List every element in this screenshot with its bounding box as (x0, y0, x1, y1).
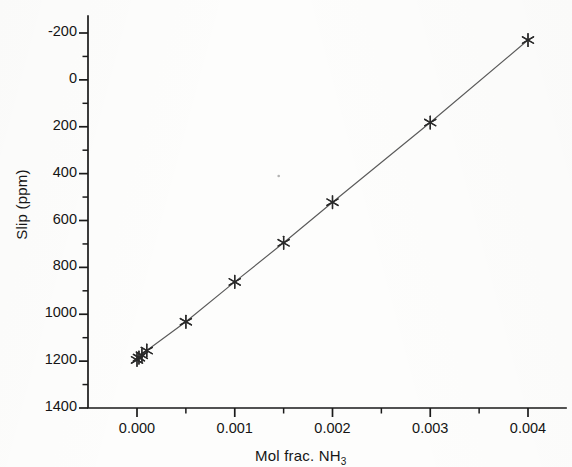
data-point-marker (278, 236, 289, 249)
y-axis-tick-label: 0 (15, 70, 77, 86)
y-axis-tick-label: 200 (15, 117, 77, 133)
chart-screenshot: Slip (ppm) Mol frac. NH3 140012001000800… (0, 0, 572, 467)
slip-vs-mol-frac-plot (0, 0, 572, 467)
x-axis-tick-label: 0.003 (395, 420, 465, 436)
y-axis-major-ticks (79, 33, 88, 408)
y-axis-tick-label: 1200 (15, 351, 77, 367)
data-point-marker (180, 315, 191, 328)
x-axis-tick-label: 0.004 (493, 420, 563, 436)
data-point-marker (425, 116, 436, 129)
x-axis-title: Mol frac. NH3 (255, 447, 346, 467)
x-axis-title-subscript: 3 (341, 456, 347, 467)
data-point-marker (229, 276, 240, 289)
y-axis-tick-label: -200 (15, 23, 77, 39)
y-axis-tick-label: 600 (15, 211, 77, 227)
y-axis-tick-label: 400 (15, 164, 77, 180)
y-axis-tick-label: 1400 (15, 398, 77, 414)
y-axis-tick-label: 800 (15, 257, 77, 273)
scan-artifact-speck (277, 175, 280, 178)
x-axis-tick-label: 0.002 (298, 420, 368, 436)
x-axis-tick-label: 0.000 (102, 420, 172, 436)
data-point-marker (327, 196, 338, 209)
x-axis-major-ticks (137, 408, 528, 417)
axis-frame (88, 16, 566, 408)
data-point-marker (522, 34, 533, 47)
x-axis-title-main: Mol frac. NH (255, 447, 341, 464)
x-axis-tick-label: 0.001 (200, 420, 270, 436)
y-axis-tick-label: 1000 (15, 304, 77, 320)
